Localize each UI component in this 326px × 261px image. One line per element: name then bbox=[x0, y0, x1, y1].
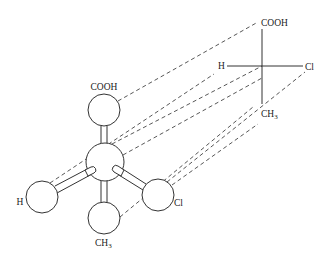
molecule-diagram: COOH H Cl CH3 COOH H Cl CH3 bbox=[0, 0, 326, 261]
atom-cl bbox=[142, 179, 174, 211]
atom-center-carbon bbox=[86, 143, 124, 181]
fischer-label-h: H bbox=[218, 61, 225, 71]
projection-line-cooh bbox=[118, 22, 258, 101]
label-cl: Cl bbox=[174, 198, 183, 208]
fischer-label-cooh: COOH bbox=[261, 18, 288, 28]
atom-ch3 bbox=[88, 202, 120, 234]
projection-line-cl bbox=[167, 72, 305, 182]
fischer-projection: COOH H Cl CH3 bbox=[218, 18, 314, 121]
projection-line-h bbox=[50, 74, 214, 183]
projection-line-cl-lower bbox=[172, 124, 258, 185]
fischer-label-ch3: CH3 bbox=[261, 109, 278, 121]
projection-line-center-top bbox=[112, 66, 262, 144]
atom-cooh bbox=[88, 94, 120, 126]
fischer-label-cl: Cl bbox=[305, 62, 314, 72]
label-h: H bbox=[17, 197, 24, 207]
projection-lines bbox=[50, 22, 305, 217]
label-cooh: COOH bbox=[91, 82, 118, 92]
atom-h bbox=[26, 181, 58, 213]
label-ch3: CH3 bbox=[95, 238, 112, 250]
